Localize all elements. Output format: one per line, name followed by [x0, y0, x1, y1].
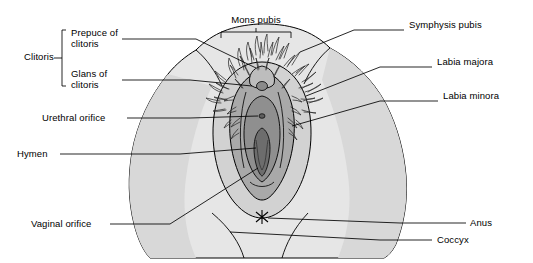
label-prepuce-of-clitoris: Prepuce of clitoris: [71, 27, 118, 49]
label-labia-minora: Labia minora: [443, 90, 499, 101]
label-clitoris: Clitoris: [24, 51, 54, 62]
label-mons-pubis: Mons pubis: [206, 14, 306, 25]
urethral-orifice-mark: [259, 114, 265, 119]
label-anus: Anus: [470, 217, 492, 228]
label-vaginal-orifice: Vaginal orifice: [31, 218, 91, 229]
label-urethral-orifice: Urethral orifice: [42, 112, 105, 123]
label-hymen: Hymen: [17, 148, 48, 159]
anatomy-figure: Clitoris Prepuce of clitoris Glans of cl…: [0, 0, 533, 263]
label-symphysis-pubis: Symphysis pubis: [409, 19, 482, 30]
glans-of-clitoris: [257, 82, 268, 91]
label-labia-majora: Labia majora: [437, 56, 493, 67]
label-glans-of-clitoris: Glans of clitoris: [71, 68, 107, 90]
label-coccyx: Coccyx: [437, 234, 469, 245]
leader-clitoris-bracket: [62, 30, 66, 86]
